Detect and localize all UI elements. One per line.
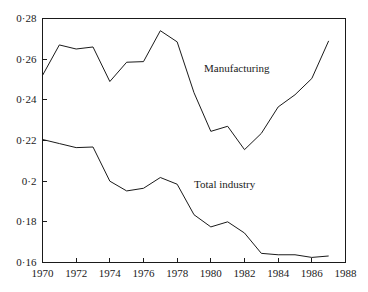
y-tick-label: 0·24 xyxy=(2,94,37,105)
series-line-total-industry xyxy=(43,139,329,257)
data-series-group xyxy=(43,31,329,258)
series-annotation-total-industry: Total industry xyxy=(194,178,255,190)
y-tick-label: 0·28 xyxy=(2,13,37,24)
x-tick-label: 1988 xyxy=(324,268,368,279)
x-axis-ticks xyxy=(43,258,346,263)
line-chart-plot xyxy=(0,0,368,292)
y-tick-label: 0·2 xyxy=(2,176,37,187)
series-line-manufacturing xyxy=(43,31,329,150)
chart-figure: 0·280·260·240·220·20·180·16 197019721974… xyxy=(0,0,368,292)
y-tick-label: 0·18 xyxy=(2,216,37,227)
y-tick-label: 0·26 xyxy=(2,54,37,65)
axis-frame-path xyxy=(43,19,346,263)
plot-frame xyxy=(43,19,346,263)
series-annotation-manufacturing: Manufacturing xyxy=(204,62,269,74)
y-tick-label: 0·22 xyxy=(2,135,37,146)
